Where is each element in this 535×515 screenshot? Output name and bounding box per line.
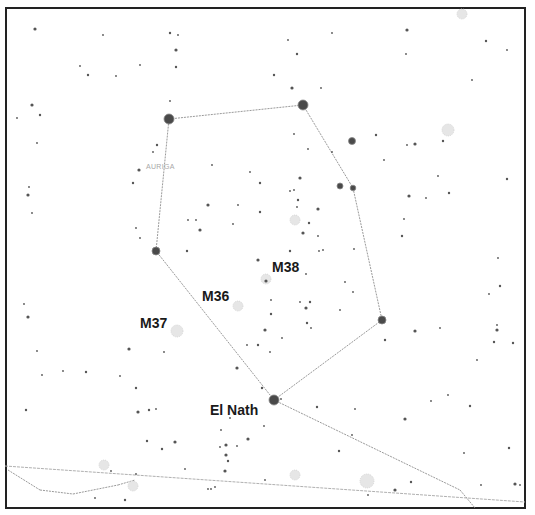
star-icon [148, 409, 150, 411]
star-chart: AURIGA M38M36M37El Nath [0, 0, 535, 515]
star-icon [469, 405, 471, 407]
star-icon [224, 453, 227, 456]
star-icon [405, 28, 408, 31]
star-icon [306, 322, 308, 324]
delta-aurigae-area-star-icon [349, 138, 356, 145]
star-icon [471, 79, 473, 81]
star-icon [28, 186, 30, 188]
star-icon [273, 74, 275, 76]
constellation-label-auriga: AURIGA [146, 163, 175, 170]
star-icon [331, 151, 333, 153]
cluster-295-220-icon [290, 215, 300, 225]
star-icon [269, 351, 271, 353]
star-icon [136, 410, 139, 413]
star-icon [281, 337, 283, 339]
star-icon [290, 86, 293, 89]
star-icon [513, 482, 516, 485]
star-icon [139, 237, 141, 239]
star-icon [16, 117, 18, 119]
star-icon [198, 228, 201, 231]
star-icon [132, 182, 134, 184]
star-icon [367, 494, 369, 496]
star-icon [506, 178, 508, 180]
star-icon [352, 291, 354, 293]
star-icon [246, 437, 249, 440]
star-icon [137, 168, 140, 171]
star-icon [259, 211, 261, 213]
star-icon [169, 32, 171, 34]
star-icon [448, 192, 450, 194]
cluster-295-475-icon [290, 470, 300, 480]
star-icon [308, 222, 310, 224]
star-icon [485, 40, 487, 42]
cluster-133-486-icon [128, 481, 138, 491]
cluster-367-481-icon [360, 474, 374, 488]
star-icon [214, 486, 216, 488]
star-icon [293, 133, 295, 135]
star-icon [26, 193, 29, 196]
star-icon [480, 484, 482, 486]
star-icon [124, 499, 126, 501]
cluster-104-465-icon [99, 460, 109, 470]
star-icon [152, 151, 154, 153]
star-icon [156, 144, 158, 146]
star-icon [317, 235, 319, 237]
star-icon [519, 484, 521, 486]
star-icon [115, 75, 117, 77]
star-icon [405, 53, 407, 55]
star-icon [23, 303, 25, 305]
star-icon [309, 301, 311, 303]
star-icon [447, 394, 449, 396]
star-icon [442, 140, 444, 142]
star-icon [184, 468, 186, 470]
star-icon [316, 207, 319, 210]
star-icon [338, 450, 340, 452]
cluster-448-130-icon [442, 124, 454, 136]
star-icon [220, 429, 222, 431]
star-icon [354, 408, 356, 410]
star-icon [353, 248, 355, 250]
star-icon [146, 440, 148, 442]
star-icon [331, 32, 333, 34]
cluster-462-14-icon [457, 9, 467, 19]
star-icon [31, 212, 33, 214]
star-icon [261, 387, 263, 389]
label-m38: M38 [272, 259, 299, 275]
star-icon [310, 327, 312, 329]
star-icon [384, 339, 386, 341]
star-icon [425, 197, 427, 199]
star-icon [299, 301, 301, 303]
star-icon [320, 87, 322, 89]
star-icon [232, 223, 234, 225]
theta-aurigae-star-icon [378, 316, 386, 324]
star-icon [296, 53, 298, 55]
star-icon [437, 175, 439, 177]
star-icon [322, 249, 324, 251]
m36-cluster-icon [233, 301, 243, 311]
star-icon [263, 425, 265, 427]
star-icon [211, 164, 213, 166]
star-icon [186, 250, 188, 252]
star-icon [264, 479, 266, 481]
star-icon [256, 258, 259, 261]
star-icon [430, 400, 432, 402]
star-icon [512, 342, 514, 344]
menkalinan-star-icon [298, 100, 308, 110]
star-icon [351, 434, 353, 436]
star-icon [25, 409, 27, 411]
star-icon [506, 49, 508, 51]
star-icon [407, 194, 410, 197]
star-icon [497, 257, 499, 259]
star-icon [410, 481, 412, 483]
star-icon [94, 497, 96, 499]
m37-cluster-icon [171, 325, 183, 337]
star-icon [139, 64, 141, 66]
star-icon [297, 199, 299, 201]
capella-star-icon [164, 114, 174, 124]
star-icon [339, 309, 341, 311]
star-icon [119, 375, 121, 377]
star-icon [263, 328, 266, 331]
star-icon [383, 159, 385, 161]
star-icon [264, 279, 267, 282]
star-icon [270, 299, 272, 301]
